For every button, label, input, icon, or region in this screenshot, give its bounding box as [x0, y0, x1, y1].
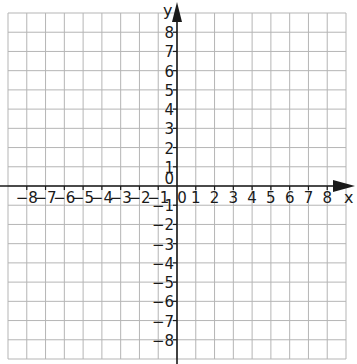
- x-tick-label: 3: [229, 189, 239, 207]
- x-tick-label: 7: [304, 189, 314, 207]
- x-tick-label: 4: [247, 189, 257, 207]
- x-tick-label: 2: [210, 189, 220, 207]
- y-tick-label: 7: [164, 43, 174, 61]
- x-axis-label: x: [344, 188, 353, 207]
- y-origin-label: 0: [164, 170, 174, 188]
- y-tick-label: −4: [152, 255, 174, 273]
- y-tick-label: 2: [164, 140, 174, 158]
- y-tick-label: 3: [164, 120, 174, 138]
- x-tick-label: 6: [285, 189, 295, 207]
- y-tick-label: −8: [152, 332, 174, 350]
- x-origin-label: 0: [177, 189, 187, 207]
- x-tick-label: 8: [322, 189, 332, 207]
- y-tick-label: −6: [152, 293, 174, 311]
- y-axis-arrow-icon: [172, 2, 182, 22]
- y-tick-labels: 87654321−1−2−3−4−5−6−7−80: [152, 24, 177, 350]
- y-tick-label: 5: [164, 82, 174, 100]
- x-tick-label: 5: [266, 189, 276, 207]
- y-tick-label: −5: [152, 274, 174, 292]
- y-tick-label: −2: [152, 216, 174, 234]
- y-tick-label: 4: [164, 101, 174, 119]
- y-axis-label: y: [163, 1, 172, 20]
- y-tick-label: −7: [152, 313, 174, 331]
- y-tick-label: −1: [152, 197, 174, 215]
- axes: [0, 2, 355, 364]
- coordinate-grid: −8−7−6−5−4−3−2−1123456780 87654321−1−2−3…: [0, 0, 357, 364]
- x-tick-label: 1: [191, 189, 201, 207]
- y-tick-label: −3: [152, 236, 174, 254]
- y-tick-label: 8: [164, 24, 174, 42]
- y-tick-label: 6: [164, 63, 174, 81]
